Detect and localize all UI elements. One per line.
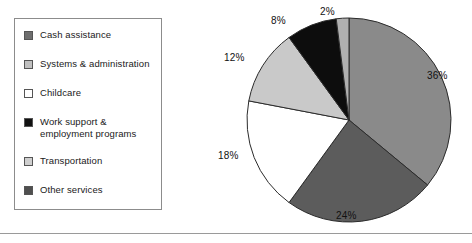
legend-swatch-other-services <box>24 186 33 195</box>
legend-item-childcare[interactable]: Childcare <box>24 87 81 99</box>
legend-label-transportation: Transportation <box>40 155 102 167</box>
pie-slices <box>247 18 451 222</box>
legend-item-other-services[interactable]: Other services <box>24 184 103 196</box>
legend-label-cash-assistance: Cash assistance <box>40 29 111 41</box>
pie-label-8: 8% <box>271 15 286 26</box>
legend-swatch-transportation <box>24 157 33 166</box>
legend-swatch-cash-assistance <box>24 31 33 40</box>
pie-label-18: 18% <box>218 150 239 161</box>
legend-item-transportation[interactable]: Transportation <box>24 155 102 167</box>
pie-label-2: 2% <box>320 6 335 17</box>
legend-swatch-childcare <box>24 89 33 98</box>
legend-label-childcare: Childcare <box>40 87 81 99</box>
pie-chart-area: 2% 36% 24% 18% 12% 8% <box>236 4 468 232</box>
legend-swatch-work-support <box>24 118 33 127</box>
pie-chart-figure: Cash assistance Systems & administration… <box>0 0 472 243</box>
footer-divider <box>0 233 472 234</box>
legend-item-systems-administration[interactable]: Systems & administration <box>24 58 150 70</box>
legend-item-cash-assistance[interactable]: Cash assistance <box>24 29 111 41</box>
legend-label-other-services: Other services <box>40 184 103 196</box>
pie-svg <box>236 4 468 232</box>
legend-label-work-support: Work support & employment programs <box>40 116 136 140</box>
legend-swatch-systems-administration <box>24 60 33 69</box>
chart-legend: Cash assistance Systems & administration… <box>14 18 162 210</box>
pie-label-24: 24% <box>336 210 357 221</box>
pie-label-36: 36% <box>427 70 448 81</box>
legend-label-systems-administration: Systems & administration <box>40 58 150 70</box>
pie-label-12: 12% <box>224 52 245 63</box>
legend-item-work-support[interactable]: Work support & employment programs <box>24 116 136 140</box>
